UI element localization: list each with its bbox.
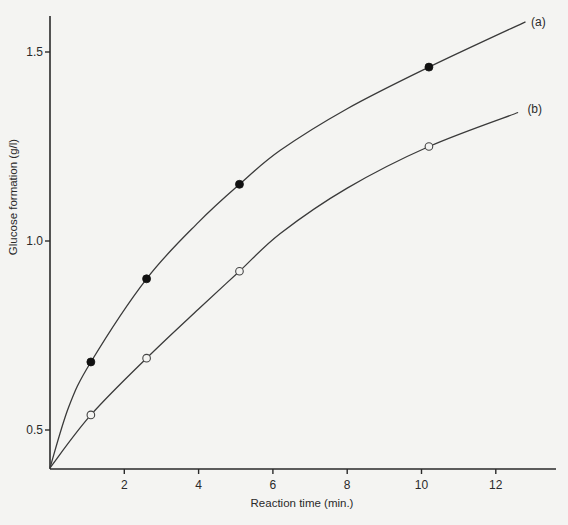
- x-axis-title: Reaction time (min.): [251, 497, 354, 509]
- open-data-point: [236, 267, 244, 275]
- open-data-point: [143, 354, 151, 362]
- y-axis-title: Glucose formation (g/l): [7, 139, 19, 255]
- x-tick-label: 6: [270, 478, 277, 492]
- axes: [50, 16, 556, 469]
- open-data-point: [87, 411, 95, 419]
- x-tick-label: 8: [344, 478, 351, 492]
- filled-data-point: [425, 63, 433, 71]
- glucose-chart: 24681012 0.51.01.5 (a)(b) Reaction time …: [0, 0, 568, 525]
- x-tick-label: 12: [489, 478, 503, 492]
- series-label-b: (b): [527, 102, 542, 116]
- x-tick-label: 4: [195, 478, 202, 492]
- x-tick-label: 2: [121, 478, 128, 492]
- y-tick-label: 1.0: [26, 234, 43, 248]
- filled-data-point: [87, 358, 95, 366]
- filled-data-point: [235, 180, 243, 188]
- chart-canvas: 24681012 0.51.01.5 (a)(b) Reaction time …: [0, 0, 568, 525]
- y-ticks: 0.51.01.5: [26, 45, 50, 437]
- curve-b: [50, 113, 518, 468]
- x-tick-label: 10: [415, 478, 429, 492]
- series-labels: (a)(b): [527, 15, 545, 116]
- y-tick-label: 1.5: [26, 45, 43, 59]
- open-data-point: [425, 143, 433, 151]
- curve-a: [50, 22, 526, 468]
- y-tick-label: 0.5: [26, 423, 43, 437]
- x-ticks: 24681012: [121, 469, 503, 492]
- series-label-a: (a): [531, 15, 546, 29]
- filled-data-point: [143, 275, 151, 283]
- curves: [50, 22, 526, 468]
